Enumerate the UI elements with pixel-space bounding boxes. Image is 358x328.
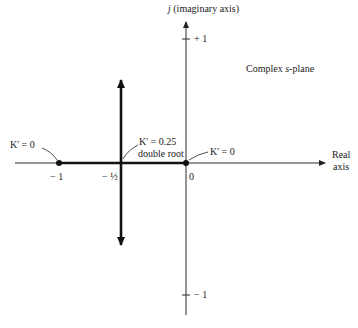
title-part3: -plane — [289, 63, 315, 74]
root-locus-diagram: j (imaginary axis) Real axis Complex s-p… — [0, 0, 358, 328]
title-part1: Complex — [246, 63, 285, 74]
pole-minus-one — [56, 160, 62, 166]
real-axis-label-line1: Real — [332, 149, 351, 160]
tick-label-real-minus-one: − 1 — [50, 171, 63, 182]
annotation-right-pole: K' = 0 — [210, 146, 235, 157]
leader-left-pole — [42, 148, 57, 160]
imaginary-axis-label: j (imaginary axis) — [166, 3, 239, 15]
annotation-breakaway-gain: K' = 0.25 — [139, 136, 176, 147]
plane-title: Complex s-plane — [246, 63, 315, 74]
tick-label-imag-minus-one: − 1 — [194, 289, 207, 300]
tick-label-real-minus-half: − ½ — [102, 171, 118, 182]
leader-breakaway — [123, 145, 138, 159]
pole-origin — [183, 160, 189, 166]
annotation-left-pole: K' = 0 — [10, 139, 35, 150]
annotation-breakaway-root: double root — [138, 148, 184, 159]
imag-rest: (imaginary axis) — [171, 3, 239, 15]
tick-label-imag-plus-one: + 1 — [194, 33, 207, 44]
leader-right-pole — [189, 152, 208, 160]
real-axis-label-line2: axis — [333, 161, 349, 172]
tick-label-origin: 0 — [189, 171, 194, 182]
